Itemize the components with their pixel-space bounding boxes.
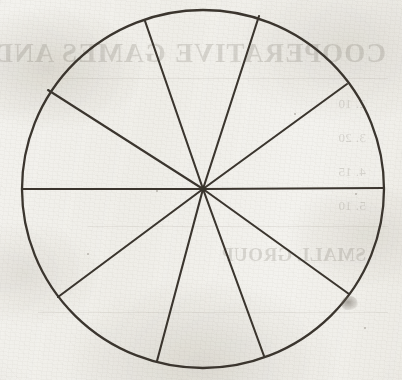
fraction-circle-figure [0, 0, 402, 380]
spoke-ese [203, 189, 349, 294]
bleed-line-4: 5. 10 [338, 198, 366, 214]
bleed-through-layer: COOPERATIVE GAMES AND SPORTS 2. 10 3. 20… [0, 0, 402, 380]
fraction-circle-svg [0, 0, 402, 380]
spoke-wsw [58, 189, 203, 297]
bleed-line-5: SMALL GROUP [222, 244, 366, 266]
spoke-ssw [157, 189, 203, 361]
spoke-ene [203, 84, 347, 189]
spoke-east [203, 188, 384, 189]
spoke-nne [203, 16, 259, 189]
paper-speck [364, 327, 366, 329]
bleed-line-1: 2. 10 [338, 96, 366, 112]
paper-speck [87, 253, 89, 255]
paper-speck [294, 113, 296, 115]
bleed-line-2: 3. 20 [338, 130, 366, 146]
page-vignette [0, 0, 402, 380]
bleed-rule-bottom [38, 312, 388, 313]
page-canvas: COOPERATIVE GAMES AND SPORTS 2. 10 3. 20… [0, 0, 402, 380]
spoke-wnw [48, 90, 203, 189]
bleed-rule-mid [88, 226, 388, 227]
bleed-line-3: 4. 15 [338, 164, 366, 180]
spoke-nnw [145, 21, 203, 189]
bleed-rule-top [58, 78, 388, 79]
paper-speck [355, 193, 357, 195]
paper-fiber-texture [0, 0, 402, 380]
bleed-heading-text: COOPERATIVE GAMES AND SPORTS [0, 38, 386, 69]
paper-grain-texture [0, 0, 402, 380]
circle-outline [22, 10, 384, 368]
ink-smudge-artifact [341, 296, 358, 310]
spoke-sse [203, 189, 264, 356]
spokes-group [22, 16, 384, 361]
paper-speck [156, 190, 158, 192]
center-point [200, 186, 205, 191]
